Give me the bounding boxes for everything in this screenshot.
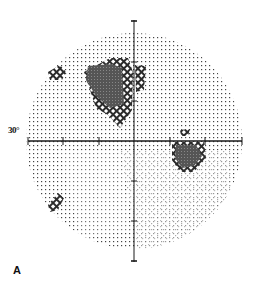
eccentricity-label: 30° [8,125,19,135]
visual-field-plot [0,0,256,289]
field-grayscale [20,30,250,260]
panel-label: A [13,264,21,276]
